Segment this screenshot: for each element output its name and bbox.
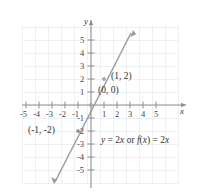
y-tick-2: 2 [80, 75, 84, 84]
x-tick-1: 1 [102, 110, 106, 119]
equation-eq1: = 2 [105, 135, 120, 145]
point-label-neg1-neg2: (-1, -2) [28, 126, 55, 136]
function-line [56, 33, 131, 180]
point-1-2 [102, 77, 106, 81]
x-tick-neg4: -4 [33, 110, 40, 119]
y-axis-label: y [84, 17, 88, 26]
equation-label: y = 2x or f(x) = 2x [101, 136, 169, 146]
x-tick-neg5: -5 [20, 110, 27, 119]
y-axis-arrowhead [89, 20, 93, 25]
point-label-0-0: (0, 0) [98, 86, 119, 96]
y-tick-neg2: -2 [77, 127, 84, 136]
x-tick-neg1: -1 [72, 110, 79, 119]
scan-artifact [6, 1, 9, 9]
coordinate-plane-svg [0, 0, 200, 195]
equation-eq2: = 2 [150, 135, 165, 145]
y-tick-5: 5 [80, 36, 84, 45]
y-tick-neg5: -5 [77, 166, 84, 175]
equation-or: or [124, 135, 137, 145]
x-tick-4: 4 [141, 110, 145, 119]
equation-x3: x [165, 135, 169, 145]
x-tick-neg3: -3 [46, 110, 53, 119]
x-tick-5: 5 [154, 110, 158, 119]
y-tick-neg3: -3 [77, 140, 84, 149]
x-axis-label: x [180, 107, 184, 116]
y-tick-1: 1 [80, 88, 84, 97]
y-tick-neg4: -4 [77, 153, 84, 162]
point-label-1-2: (1, 2) [111, 72, 132, 82]
point-0-0 [89, 103, 93, 107]
y-tick-4: 4 [80, 49, 84, 58]
x-tick-neg2: -2 [59, 110, 66, 119]
x-tick-2: 2 [115, 110, 119, 119]
y-tick-3: 3 [80, 62, 84, 71]
x-tick-3: 3 [128, 110, 132, 119]
